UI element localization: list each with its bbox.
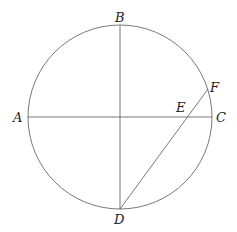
chord-df	[120, 89, 208, 209]
label-e: E	[175, 100, 186, 115]
label-c: C	[216, 110, 226, 125]
label-b: B	[114, 10, 125, 25]
label-d: D	[113, 212, 125, 227]
label-a: A	[12, 110, 22, 125]
geometry-diagram: A B C D E F	[0, 0, 237, 232]
label-f: F	[209, 80, 220, 95]
